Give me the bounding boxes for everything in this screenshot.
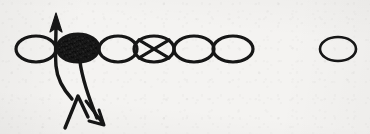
route-down-out-shaft [80,62,97,118]
play-diagram-canvas: Offensive formation of six linemen with … [0,0,370,134]
play-diagram-svg [0,0,370,134]
player-marker-lineman-4 [213,36,253,62]
player-marker-lineman-2 [99,36,137,62]
player-row [16,34,356,62]
arrowhead-down-right-icon [86,101,104,125]
player-marker-center [134,36,174,62]
arrowheads [50,13,104,125]
player-marker-lineman-3 [174,36,214,62]
player-marker-ball-carrier [57,34,99,62]
player-marker-split-end [320,37,356,61]
player-marker-lineman-1 [16,36,56,62]
